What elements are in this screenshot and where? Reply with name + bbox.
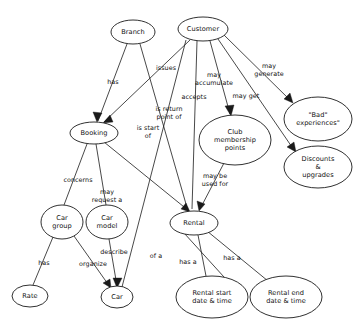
node-branch[interactable]: [111, 20, 155, 44]
arrowhead-customer-discounts: [287, 142, 296, 152]
node-rental-start-date[interactable]: [176, 276, 248, 318]
node-rate[interactable]: [12, 285, 48, 307]
node-club-membership-points[interactable]: [199, 115, 271, 165]
concept-map-canvas: Branch Customer "Bad" experiences" Club …: [0, 0, 354, 331]
edge-customer-is-start-of-car: [122, 40, 186, 287]
arrowhead-customer-booking: [103, 115, 113, 123]
arrowhead-customer-club: [225, 105, 234, 116]
edge-cargroup-has-rate: [33, 237, 53, 285]
edge-club-may-be-used-for-rental: [200, 163, 224, 209]
edge-cargroup-organize-car: [74, 236, 110, 287]
arrowhead-cargroup-car: [103, 279, 111, 288]
edge-branch-is-return-point-of: [140, 44, 188, 211]
node-discounts-upgrades[interactable]: [284, 146, 352, 188]
node-car-group[interactable]: [41, 205, 83, 239]
edge-booking-concerns-cargroup: [64, 144, 87, 205]
concept-map-svg: [0, 0, 354, 331]
node-car-model[interactable]: [86, 205, 128, 239]
edge-customer-may-generate-bad: [224, 35, 291, 101]
edge-branch-has-booking: [98, 44, 127, 121]
edge-booking-of-a-rental: [104, 142, 189, 211]
nodes-layer: [12, 17, 352, 318]
arrowhead-customer-bad: [284, 93, 293, 103]
node-rental-end-date[interactable]: [250, 276, 322, 318]
arrowhead-branch-booking: [93, 112, 102, 122]
node-customer[interactable]: [178, 17, 228, 41]
edge-booking-may-request-a-carmodel: [96, 144, 106, 205]
edge-rental-has-a-enddate: [207, 231, 268, 281]
edge-customer-issues-booking: [104, 40, 190, 122]
node-bad-experiences[interactable]: [284, 97, 352, 141]
arrowhead-booking-rental: [181, 203, 190, 212]
node-car[interactable]: [101, 286, 133, 308]
edges-layer: [33, 35, 296, 288]
node-rental[interactable]: [170, 211, 218, 235]
node-booking[interactable]: [70, 122, 118, 144]
edge-customer-accepts-rental: [192, 41, 197, 209]
